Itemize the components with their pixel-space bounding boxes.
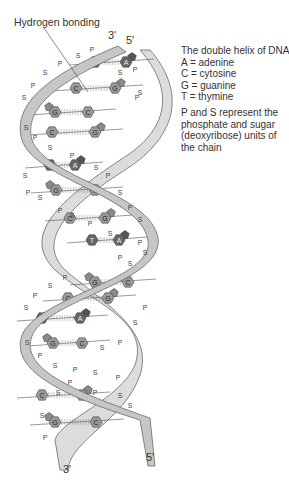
bottom-5prime-label: 5'	[146, 451, 154, 463]
legend-item-guanine: G = guanine	[181, 80, 289, 92]
sugar-label: S	[138, 216, 143, 223]
base-letter: G	[105, 295, 110, 302]
base-letter: C	[93, 419, 98, 426]
sugar-label: S	[38, 194, 43, 201]
phosphate-label: P	[138, 239, 143, 246]
sugar-label: S	[22, 94, 27, 101]
base-letter: A	[73, 162, 78, 169]
bottom-3prime-label: 3'	[63, 463, 71, 475]
base-letter: G	[92, 129, 97, 136]
base-pair-G-C: GC	[28, 334, 110, 349]
base-letter: G	[52, 109, 57, 116]
legend-item-cytosine: C = cytosine	[181, 68, 289, 80]
base-letter: T	[90, 237, 95, 244]
phosphate-label: P	[68, 379, 73, 386]
phosphate-label: P	[143, 304, 148, 311]
phosphate-label: P	[70, 152, 75, 159]
note-line: the chain	[181, 142, 278, 154]
base-pair-G-C: GC	[30, 103, 116, 118]
base-letter: G	[92, 279, 97, 286]
phosphate-label: P	[88, 220, 93, 227]
base-letter: C	[125, 279, 130, 286]
sugar-label: S	[133, 319, 138, 326]
base-pair-C-G: CG	[27, 123, 123, 138]
phosphate-label: P	[58, 207, 63, 214]
note-line: phosphate and sugar	[181, 119, 278, 131]
base-letter: G	[50, 340, 55, 347]
top-3prime-label: 3'	[108, 29, 116, 41]
top-5prime-label: 5'	[126, 34, 134, 46]
base-letter: C	[85, 109, 90, 116]
phosphate-label: P	[128, 204, 133, 211]
sugar-label: S	[70, 212, 75, 219]
sugar-label: S	[128, 260, 133, 267]
base-letter: A	[124, 59, 129, 66]
base-letter: C	[79, 340, 84, 347]
legend-title: The double helix of DNA	[181, 45, 289, 57]
phosphate-label: P	[43, 434, 48, 441]
phosphate-label: P	[58, 60, 63, 67]
sugar-label: S	[118, 392, 123, 399]
base-letter: C	[39, 392, 44, 399]
base-letter: C	[49, 129, 54, 136]
base-letter: G	[112, 85, 117, 92]
base-pair-T-A: TA	[17, 309, 108, 324]
note-line: P and S represent the	[181, 107, 278, 119]
legend-item-thymine: T = thymine	[181, 91, 289, 103]
sugar-label: S	[48, 282, 53, 289]
sugar-label: S	[23, 172, 28, 179]
sugar-label: S	[53, 362, 58, 369]
phosphate-label: P	[93, 389, 98, 396]
phosphate-label: P	[116, 374, 121, 381]
sugar-label: S	[128, 402, 133, 409]
sugar-label: S	[24, 124, 29, 131]
phosphate-label: P	[133, 66, 138, 73]
phosphate-label: P	[31, 82, 36, 89]
ps-note: P and S represent the phosphate and suga…	[181, 107, 278, 153]
phosphate-label: P	[33, 292, 38, 299]
legend: The double helix of DNA A = adenine C = …	[181, 45, 289, 103]
base-letter: A	[117, 237, 122, 244]
sugar-label: S	[76, 52, 81, 59]
sugar-label: S	[48, 144, 53, 151]
base-letter: A	[78, 315, 83, 322]
sugar-label: S	[43, 69, 48, 76]
legend-item-adenine: A = adenine	[181, 57, 289, 69]
base-letter: G	[53, 187, 58, 194]
sugar-label: S	[100, 344, 105, 351]
sugar-label: S	[118, 189, 123, 196]
sugar-label: S	[56, 389, 61, 396]
phosphate-label: P	[26, 189, 31, 196]
phosphate-label: P	[118, 254, 123, 261]
base-letter: G	[52, 419, 57, 426]
hydrogen-bonding-label: Hydrogen bonding	[14, 16, 100, 28]
phosphate-label: P	[73, 366, 78, 373]
sugar-label: S	[118, 69, 123, 76]
sugar-label: S	[108, 230, 113, 237]
phosphate-label: P	[63, 274, 68, 281]
phosphate-label: P	[33, 134, 38, 141]
base-letter: C	[73, 85, 78, 92]
sugar-label: S	[93, 369, 98, 376]
base-letter: G	[102, 215, 107, 222]
sugar-label: S	[94, 164, 99, 171]
sugar-label: S	[40, 412, 45, 419]
phosphate-label: P	[38, 352, 43, 359]
phosphate-label: P	[106, 172, 111, 179]
sugar-label: S	[25, 339, 30, 346]
sugar-label: S	[24, 304, 29, 311]
phosphate-label: P	[90, 46, 95, 53]
sugar-label: S	[143, 249, 148, 256]
phosphate-label: P	[135, 94, 140, 101]
note-line: (deoxyribose) units of	[181, 130, 278, 142]
phosphate-label: P	[118, 339, 123, 346]
